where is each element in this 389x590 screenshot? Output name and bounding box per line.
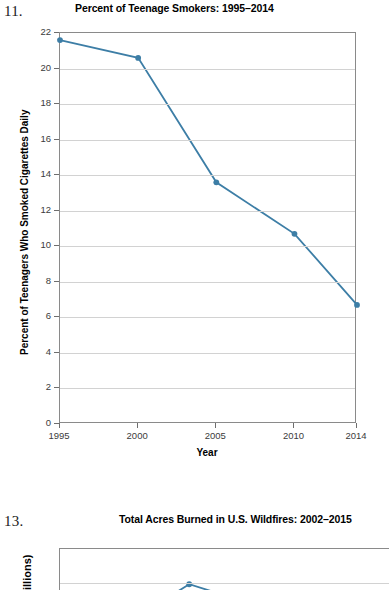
x-tick-mark [215,423,216,428]
y-tick-label: 18 [25,97,51,108]
data-point [292,231,298,237]
gridline [60,388,355,389]
y-tick-label: 14 [25,168,51,179]
y-tick-mark [54,210,59,211]
y-tick-mark [54,139,59,140]
x-tick-mark [293,423,294,428]
y-tick-mark [54,387,59,388]
data-point [354,302,360,308]
y-tick-mark [54,103,59,104]
figure-13-title: Total Acres Burned in U.S. Wildfires: 20… [119,513,352,525]
y-tick-label: 12 [25,204,51,215]
y-tick-mark [54,32,59,33]
y-tick-label: 22 [25,26,51,37]
y-tick-mark [54,352,59,353]
y-tick-mark [54,245,59,246]
figure-11-series-layer [60,33,357,424]
x-tick-label: 2000 [117,430,157,441]
figure-13-series-layer [60,549,389,590]
y-tick-mark [54,68,59,69]
figure-13-number: 13. [4,513,23,530]
gridline [60,69,355,70]
y-tick-mark [54,316,59,317]
y-tick-label: 0 [25,417,51,428]
gridline [60,282,355,283]
y-tick-label: 8 [25,275,51,286]
y-tick-label: 20 [25,62,51,73]
data-point [135,55,141,61]
x-tick-label: 2014 [336,430,376,441]
figure-11-plot-area [59,32,356,423]
y-tick-mark [54,174,59,175]
x-tick-mark [59,423,60,428]
data-point [57,37,63,43]
y-tick-label: 2 [25,381,51,392]
gridline [60,317,355,318]
figure-11: 11. Percent of Teenage Smokers: 1995–201… [0,0,389,470]
gridline [60,140,355,141]
series-line [60,40,357,305]
x-tick-label: 2010 [273,430,313,441]
figure-11-number: 11. [4,3,23,20]
y-tick-mark [54,281,59,282]
gridline [60,246,355,247]
figure-11-x-axis-title: Year [157,447,257,458]
y-tick-label: 6 [25,310,51,321]
x-tick-mark [137,423,138,428]
figure-13: 13. Total Acres Burned in U.S. Wildfires… [0,505,389,590]
x-tick-label: 1995 [39,430,79,441]
gridline [60,583,389,584]
figure-13-y-axis-title: illions) [21,555,33,590]
gridline [60,211,355,212]
figure-13-plot-area [59,548,389,590]
gridline [60,353,355,354]
gridline [60,175,355,176]
y-tick-label: 4 [25,346,51,357]
y-tick-label: 10 [25,239,51,250]
figure-11-title: Percent of Teenage Smokers: 1995–2014 [75,2,274,14]
gridline [60,104,355,105]
y-tick-label: 16 [25,133,51,144]
data-point [213,179,219,185]
x-tick-mark [356,423,357,428]
x-tick-label: 2005 [195,430,235,441]
